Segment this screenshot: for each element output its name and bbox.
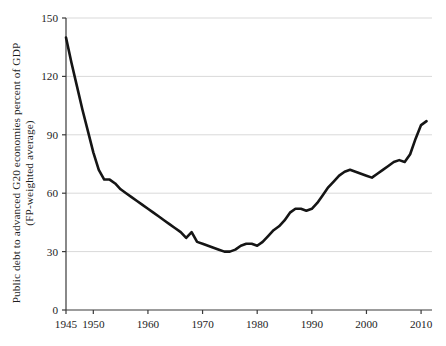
x-tick-label-1970: 1970 — [191, 318, 214, 330]
x-tick-label-2010: 2010 — [410, 318, 433, 330]
chart-container: Public debt to advanced G20 economies pe… — [0, 0, 446, 346]
x-tick-label-1980: 1980 — [246, 318, 269, 330]
x-tick-label-1960: 1960 — [137, 318, 160, 330]
x-tick-label-1950: 1950 — [82, 318, 105, 330]
data-series-line — [66, 37, 427, 251]
x-tick-label-2000: 2000 — [355, 318, 378, 330]
x-axis-ticks: 19451950196019701980199020002010 — [55, 310, 433, 330]
y-tick-label-120: 120 — [41, 70, 58, 82]
y-axis-ticks: 0306090120150 — [41, 12, 66, 316]
gridlines — [66, 18, 432, 252]
y-tick-label-0: 0 — [52, 304, 58, 316]
x-tick-label-1945: 1945 — [55, 318, 78, 330]
y-tick-label-30: 30 — [47, 246, 59, 258]
line-chart-plot: 0306090120150 19451950196019701980199020… — [0, 0, 446, 346]
x-tick-label-1990: 1990 — [301, 318, 324, 330]
y-tick-label-60: 60 — [47, 187, 59, 199]
y-tick-label-90: 90 — [47, 129, 59, 141]
y-tick-label-150: 150 — [41, 12, 58, 24]
